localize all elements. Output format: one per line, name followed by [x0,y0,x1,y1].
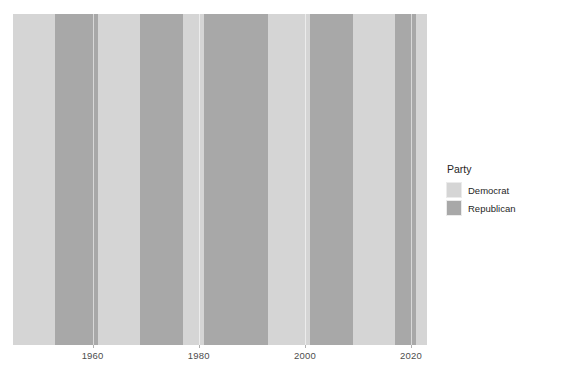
party-band [183,14,204,345]
party-band [98,14,140,345]
party-band [268,14,310,345]
party-band [310,14,352,345]
chart-plot-panel [13,14,427,345]
gridline [199,14,200,345]
legend-swatch-democrat [447,183,461,197]
party-band [55,14,97,345]
party-band [353,14,395,345]
legend-key-democrat [446,182,462,198]
party-band [204,14,268,345]
party-band [13,14,55,345]
chart-legend: Party Democrat Republican [446,163,561,217]
party-band [416,14,427,345]
legend-label-republican: Republican [468,203,516,214]
x-tick-mark [305,345,306,348]
gridline [305,14,306,345]
legend-label-democrat: Democrat [468,185,509,196]
legend-title: Party [447,163,561,175]
legend-item-democrat[interactable]: Democrat [446,181,561,199]
x-tick-mark [93,345,94,348]
legend-item-republican[interactable]: Republican [446,199,561,217]
x-tick-label: 1960 [82,350,104,361]
party-band [140,14,182,345]
x-tick-label: 2000 [294,350,316,361]
party-band [395,14,416,345]
x-axis: 1960198020002020 [13,345,427,373]
legend-swatch-republican [447,201,461,215]
x-tick-label: 2020 [400,350,422,361]
gridline [411,14,412,345]
gridline [93,14,94,345]
legend-key-republican [446,200,462,216]
x-tick-label: 1980 [188,350,210,361]
x-tick-mark [411,345,412,348]
x-tick-mark [199,345,200,348]
